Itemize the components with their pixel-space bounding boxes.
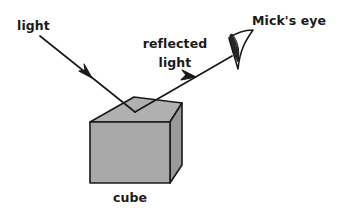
cube-shape	[90, 97, 182, 183]
incident-ray-arrowhead	[79, 64, 92, 78]
label-eye: Mick's eye	[252, 13, 326, 28]
eye-shape	[229, 30, 253, 69]
figure-canvas: light reflected light Mick's eye cube	[0, 0, 339, 208]
cube-front-face	[90, 122, 170, 183]
label-incident-light: light	[17, 18, 50, 33]
label-reflected-light-line1: reflected	[143, 36, 208, 51]
label-reflected-light-line2: light	[159, 55, 192, 70]
cube-top-face	[90, 97, 182, 122]
label-cube: cube	[113, 190, 147, 205]
incident-ray	[40, 36, 135, 112]
ray-diagram: light reflected light Mick's eye cube	[0, 0, 339, 208]
